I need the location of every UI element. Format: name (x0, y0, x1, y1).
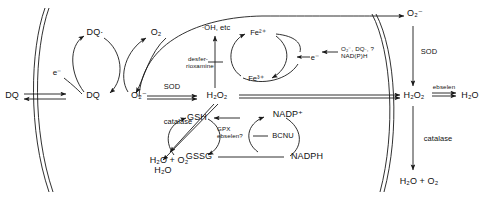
nadph-to-nadp-arc (249, 117, 264, 152)
label-oxygen: O₂ (151, 28, 162, 37)
label-desferrioxamine: desfer- rioxamine (186, 56, 208, 70)
label-sod-extracellular: SOD (421, 48, 438, 56)
fe3-to-fe2-arc (231, 34, 245, 76)
label-electron-fenton: e⁻ (311, 54, 319, 62)
label-hydroxyl-radical: ·OH, etc (202, 24, 231, 32)
label-catalase-extracellular: catalase (424, 135, 453, 143)
label-water-oxygen-extracellular: H₂O + O₂ (400, 177, 439, 186)
label-iron-ferrous: Fe²⁺ (250, 29, 266, 37)
label-dq-radical: DQ· (87, 28, 104, 37)
cell-membrane-right (372, 14, 394, 192)
label-superoxide-extracellular: O₂⁻ (407, 9, 423, 18)
label-sod-cytosolic: SOD (164, 83, 181, 91)
label-gpx: GPX ebselen? (217, 126, 243, 140)
fe2-to-fe3-arc (272, 36, 287, 78)
electron-to-dq-line (64, 78, 82, 94)
label-nadph: NADPH (291, 152, 323, 161)
o2-to-superoxide-arc (124, 38, 146, 92)
label-reductants: O₂⁻, DQ·, ? NAD(P)H (341, 46, 374, 60)
label-superoxide-cytosolic: O₂⁻ (131, 91, 147, 100)
pathway-diagram: DQ DQ DQ· e⁻ O₂ O₂⁻ SOD H₂O₂ ·OH, etc de… (0, 0, 488, 200)
cell-membrane-left (33, 8, 53, 192)
label-h2o2-extracellular: H₂O₂ (404, 91, 425, 100)
label-h2o2-cytosolic: H₂O₂ (207, 91, 228, 100)
label-gsh: GSH (187, 113, 207, 122)
fe2-outer-arc (276, 34, 300, 52)
label-gssg: GSSG (186, 152, 212, 161)
label-nadp-plus: NADP⁺ (273, 110, 304, 119)
label-electron-membrane: e⁻ (53, 69, 62, 77)
dqradical-to-dq-arc (104, 38, 120, 93)
catalase-cytosolic-arrow (170, 104, 214, 152)
dq-to-dqradical-arc (73, 36, 84, 92)
label-water-gpx: H₂O (154, 166, 171, 175)
label-ebselen-extracellular: ebselen (433, 84, 455, 91)
label-water-extracellular: H₂O (461, 91, 478, 100)
label-iron-ferric: Fe³⁺ (248, 75, 264, 83)
label-bcnu: BCNU (272, 132, 294, 140)
label-dq-extracellular: DQ (5, 91, 19, 100)
label-dq-intracellular: DQ (86, 91, 100, 100)
